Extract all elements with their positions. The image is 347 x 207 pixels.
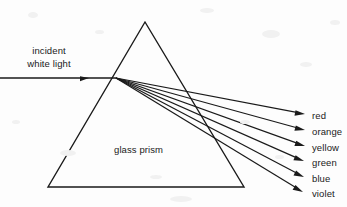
spectrum-label-red: red — [312, 109, 326, 122]
spectrum-arrowhead-yellow — [294, 141, 305, 146]
incident-label-line1: incident — [12, 44, 86, 57]
spectrum-ray-orange — [116, 78, 297, 128]
spectrum-ray-blue — [116, 78, 296, 173]
spectrum-label-violet: violet — [312, 187, 335, 200]
incident-ray-label: incident white light — [12, 44, 86, 70]
glass-prism-label: glass prism — [114, 143, 163, 156]
incident-label-line2: white light — [12, 57, 86, 70]
incident-ray-group — [0, 76, 116, 81]
spectrum-arrowhead-red — [295, 110, 305, 115]
incident-ray-arrowhead — [80, 76, 89, 81]
spectrum-label-orange: orange — [312, 125, 342, 138]
diagram-canvas — [0, 0, 347, 207]
spectrum-label-blue: blue — [312, 172, 330, 185]
spectrum-rays-group — [116, 78, 305, 192]
spectrum-arrowhead-blue — [293, 171, 304, 177]
spectrum-arrowhead-green — [293, 155, 304, 161]
spectrum-label-yellow: yellow — [312, 141, 339, 154]
spectrum-label-green: green — [312, 156, 337, 169]
prism-dispersion-figure: incident white light glass prism redoran… — [0, 0, 347, 207]
spectrum-arrowhead-orange — [294, 125, 305, 130]
